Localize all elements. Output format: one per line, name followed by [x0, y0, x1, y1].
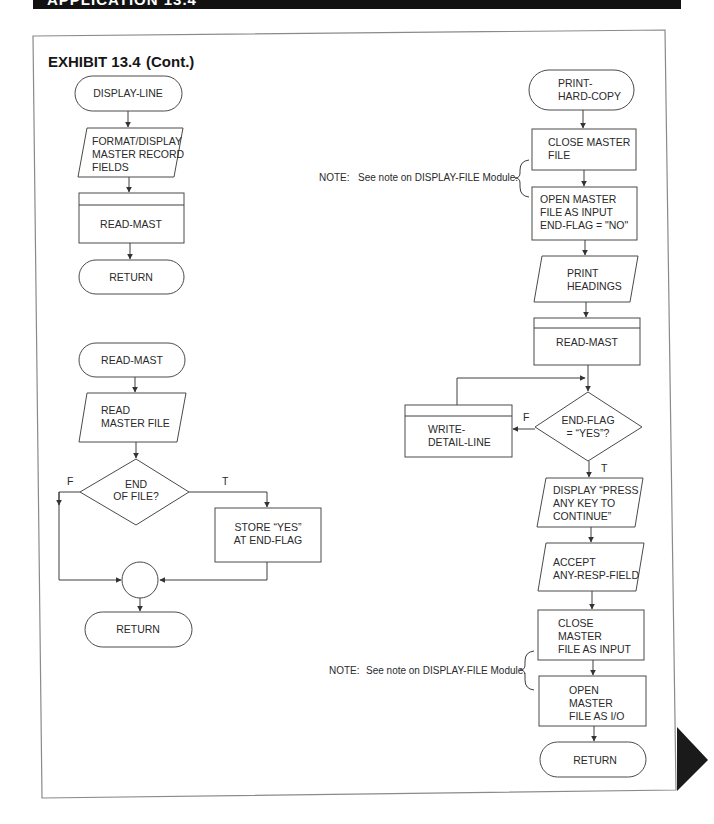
- true-branch-label: T: [601, 462, 608, 474]
- io-label-line1: FORMAT/DISPLAY: [92, 135, 182, 147]
- process-label-line1: OPEN: [569, 684, 599, 696]
- subroutine-label: READ-MAST: [556, 336, 618, 348]
- exhibit-title: EXHIBIT 13.4: [48, 53, 141, 70]
- process-label-line3: FILE AS INPUT: [558, 643, 632, 655]
- io-label-line1: PRINT: [567, 267, 599, 279]
- decision-label-line1: END-FLAG: [561, 414, 614, 426]
- decision-label-line2: OF FILE?: [113, 490, 159, 502]
- process-label-line2: MASTER: [558, 630, 602, 642]
- process-label-line1: CLOSE MASTER: [548, 136, 631, 148]
- decision-label-line1: END: [125, 478, 148, 490]
- note-text: See note on DISPLAY-FILE Module.: [366, 665, 526, 676]
- page-edge-tab-icon: [677, 727, 708, 791]
- true-branch-label: T: [222, 475, 229, 487]
- false-branch-label: F: [67, 475, 73, 487]
- process-label-line3: END-FLAG = "NO": [540, 219, 629, 231]
- io-label-line1: DISPLAY “PRESS: [553, 484, 638, 496]
- io-label-line1: ACCEPT: [553, 556, 596, 568]
- process-label-line2: MASTER: [569, 697, 613, 709]
- process-label-line1: OPEN MASTER: [540, 193, 617, 205]
- process-label-line1: STORE “YES”: [235, 521, 302, 533]
- io-label-line2: MASTER FILE: [101, 417, 170, 429]
- io-label-line2: ANY KEY TO: [553, 497, 615, 509]
- false-branch-label: F: [523, 411, 529, 423]
- note-label: NOTE:: [329, 665, 360, 676]
- process-label-line2: AT END-FLAG: [234, 534, 302, 546]
- process-label-line1: CLOSE: [558, 617, 594, 629]
- process-label-line3: FILE AS I/O: [569, 710, 624, 722]
- flowchart-canvas: EXHIBIT 13.4 (Cont.) DISPLAY-LINE FORMAT…: [0, 0, 714, 824]
- io-label-line2: ANY-RESP-FIELD: [553, 569, 639, 581]
- terminal-label: READ-MAST: [101, 354, 163, 366]
- io-label-line3: CONTINUE”: [553, 510, 612, 522]
- terminal-label: RETURN: [109, 271, 153, 283]
- process-label-line2: FILE: [548, 149, 570, 161]
- connector-circle: [122, 562, 158, 598]
- decision-label-line2: = “YES”?: [567, 427, 610, 439]
- terminal-label-line1: PRINT-: [558, 77, 593, 89]
- terminal-label: RETURN: [573, 754, 617, 766]
- note-text: See note on DISPLAY-FILE Module.: [358, 172, 518, 183]
- io-label-line3: FIELDS: [92, 161, 129, 173]
- terminal-label: RETURN: [116, 623, 160, 635]
- io-label-line2: MASTER RECORD: [92, 148, 185, 160]
- io-print-headings: [534, 256, 638, 302]
- terminal-label-line2: HARD-COPY: [558, 90, 621, 102]
- subroutine-label-line2: DETAIL-LINE: [428, 436, 491, 448]
- subroutine-label: READ-MAST: [100, 218, 162, 230]
- exhibit-subtitle: (Cont.): [146, 53, 194, 70]
- subroutine-label-line1: WRITE-: [428, 423, 466, 435]
- note-label: NOTE:: [319, 172, 350, 183]
- terminal-label: DISPLAY-LINE: [93, 87, 162, 99]
- process-label-line2: FILE AS INPUT: [540, 206, 614, 218]
- io-label-line1: READ: [101, 404, 131, 416]
- io-label-line2: HEADINGS: [567, 280, 622, 292]
